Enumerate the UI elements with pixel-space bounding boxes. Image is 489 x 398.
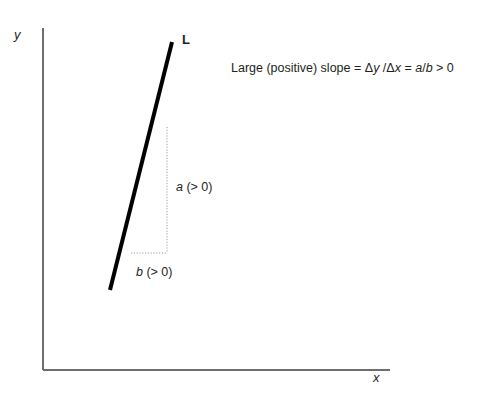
run-variable: b (136, 265, 143, 279)
slope-diagram (0, 0, 489, 398)
run-label: b (> 0) (136, 266, 172, 279)
run-condition: (> 0) (143, 265, 173, 279)
rise-condition: (> 0) (183, 180, 213, 194)
slope-formula-annotation: Large (positive) slope = Δy /Δx = a/b > … (231, 62, 454, 75)
y-axis-label: y (14, 28, 21, 41)
formula-equals: = (401, 61, 415, 75)
rise-label: a (> 0) (176, 181, 212, 194)
line-l-label: L (182, 33, 190, 46)
x-axis-label: x (373, 371, 380, 384)
formula-denominator: b (426, 61, 433, 75)
formula-suffix: > 0 (433, 61, 454, 75)
formula-separator: / (379, 61, 386, 75)
formula-prefix: Large (positive) slope = (231, 61, 365, 75)
rise-variable: a (176, 180, 183, 194)
